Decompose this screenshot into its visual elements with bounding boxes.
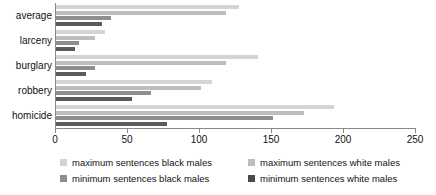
min-white-swatch bbox=[248, 175, 255, 182]
bar-robbery-maxblack bbox=[56, 80, 212, 84]
bar-group-average bbox=[56, 3, 416, 28]
chart-legend: maximum sentences black malesmaximum sen… bbox=[0, 157, 436, 191]
plot-area bbox=[56, 3, 416, 128]
min-black-swatch bbox=[60, 175, 67, 182]
bar-group-homicide bbox=[56, 103, 416, 128]
bar-burglary-maxwhite bbox=[56, 61, 226, 65]
x-tick-label-150: 150 bbox=[263, 134, 280, 145]
category-label-homicide: homicide bbox=[12, 111, 52, 121]
bar-robbery-maxwhite bbox=[56, 86, 201, 90]
category-label-average: average bbox=[16, 11, 52, 21]
legend-label: minimum sentences white males bbox=[260, 173, 397, 184]
x-tick-label-50: 50 bbox=[121, 134, 132, 145]
x-tick-label-200: 200 bbox=[335, 134, 352, 145]
bar-homicide-minwhite bbox=[56, 122, 167, 126]
x-tick-label-0: 0 bbox=[52, 134, 58, 145]
legend-item-max-black[interactable]: maximum sentences black males bbox=[60, 157, 212, 168]
bar-group-robbery bbox=[56, 78, 416, 103]
bar-homicide-minblack bbox=[56, 116, 273, 120]
bar-average-maxblack bbox=[56, 5, 239, 9]
category-axis-labels: averagelarcenyburglaryrobberyhomicide bbox=[0, 3, 52, 128]
bar-larceny-minwhite bbox=[56, 47, 75, 51]
legend-item-min-black[interactable]: minimum sentences black males bbox=[60, 173, 209, 184]
bar-homicide-maxblack bbox=[56, 105, 334, 109]
max-black-swatch bbox=[60, 159, 67, 166]
bar-robbery-minblack bbox=[56, 91, 151, 95]
bar-homicide-maxwhite bbox=[56, 111, 304, 115]
bar-chart: averagelarcenyburglaryrobberyhomicide 05… bbox=[0, 0, 436, 195]
legend-label: maximum sentences black males bbox=[72, 157, 212, 168]
legend-label: minimum sentences black males bbox=[72, 173, 209, 184]
bar-average-minwhite bbox=[56, 22, 102, 26]
legend-item-max-white[interactable]: maximum sentences white males bbox=[248, 157, 400, 168]
bar-average-maxwhite bbox=[56, 11, 226, 15]
category-label-robbery: robbery bbox=[18, 86, 52, 96]
bar-larceny-maxwhite bbox=[56, 36, 95, 40]
x-axis-ticks: 050100150200250 bbox=[55, 129, 416, 149]
x-tick-200 bbox=[343, 129, 344, 133]
x-tick-label-100: 100 bbox=[191, 134, 208, 145]
legend-label: maximum sentences white males bbox=[260, 157, 400, 168]
legend-item-min-white[interactable]: minimum sentences white males bbox=[248, 173, 397, 184]
x-tick-label-250: 250 bbox=[407, 134, 424, 145]
x-tick-0 bbox=[55, 129, 56, 133]
bar-burglary-minblack bbox=[56, 66, 95, 70]
category-label-burglary: burglary bbox=[16, 61, 52, 71]
bar-robbery-minwhite bbox=[56, 97, 132, 101]
x-tick-250 bbox=[415, 129, 416, 133]
x-tick-150 bbox=[271, 129, 272, 133]
bar-average-minblack bbox=[56, 16, 111, 20]
max-white-swatch bbox=[248, 159, 255, 166]
x-tick-100 bbox=[199, 129, 200, 133]
bar-group-burglary bbox=[56, 53, 416, 78]
x-tick-50 bbox=[127, 129, 128, 133]
category-label-larceny: larceny bbox=[20, 36, 52, 46]
bar-larceny-maxblack bbox=[56, 30, 105, 34]
bar-larceny-minblack bbox=[56, 41, 79, 45]
bar-burglary-minwhite bbox=[56, 72, 86, 76]
bar-group-larceny bbox=[56, 28, 416, 53]
bar-burglary-maxblack bbox=[56, 55, 258, 59]
